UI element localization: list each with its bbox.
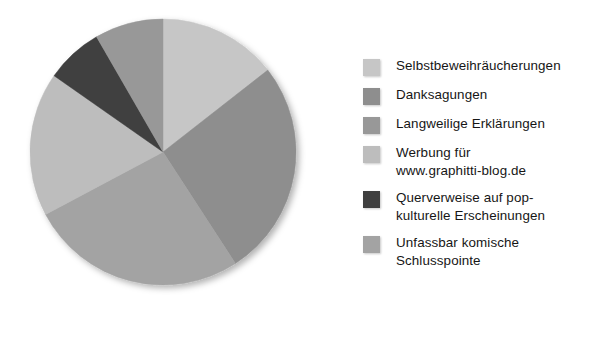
- legend-label-4: Werbung für www.graphitti-blog.de: [396, 144, 526, 179]
- legend-item-1[interactable]: Selbstbeweihräucherungen: [363, 57, 597, 76]
- legend-swatch-6: [363, 236, 380, 253]
- legend-swatch-2: [363, 88, 380, 105]
- chart-legend: SelbstbeweihräucherungenDanksagungenLang…: [363, 57, 597, 279]
- legend-label-5: Querverweise auf pop- kulturelle Erschei…: [396, 189, 545, 224]
- legend-swatch-4: [363, 146, 380, 163]
- pie-chart-svg: [0, 0, 340, 353]
- legend-item-2[interactable]: Danksagungen: [363, 86, 597, 105]
- legend-label-2: Danksagungen: [396, 86, 487, 104]
- legend-swatch-1: [363, 59, 380, 76]
- legend-item-6[interactable]: Unfassbar komische Schlusspointe: [363, 234, 597, 269]
- legend-label-1: Selbstbeweihräucherungen: [396, 57, 561, 75]
- pie-chart-area: [0, 0, 340, 353]
- legend-label-3: Langweilige Erklärungen: [396, 115, 545, 133]
- pie-slice-group: [30, 19, 296, 285]
- legend-swatch-5: [363, 191, 380, 208]
- legend-item-4[interactable]: Werbung für www.graphitti-blog.de: [363, 144, 597, 179]
- legend-swatch-3: [363, 117, 380, 134]
- legend-label-6: Unfassbar komische Schlusspointe: [396, 234, 519, 269]
- legend-item-5[interactable]: Querverweise auf pop- kulturelle Erschei…: [363, 189, 597, 224]
- legend-item-3[interactable]: Langweilige Erklärungen: [363, 115, 597, 134]
- pie-chart-figure: SelbstbeweihräucherungenDanksagungenLang…: [0, 0, 597, 353]
